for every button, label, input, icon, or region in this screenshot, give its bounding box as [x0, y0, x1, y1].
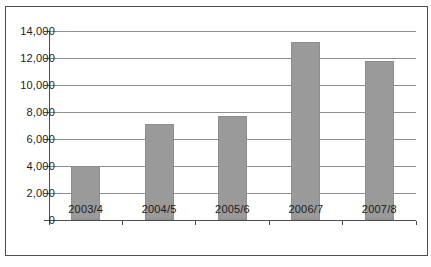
gridline-14,000	[49, 31, 416, 32]
x-axis-tick	[195, 221, 196, 225]
y-tick-label-10,000: 10,000	[20, 79, 55, 91]
y-tick-label-14,000: 14,000	[20, 25, 55, 37]
x-axis-tick	[269, 221, 270, 225]
x-tick-label-2003/4: 2003/4	[68, 203, 103, 215]
gridline-8,000	[49, 112, 416, 113]
gridline-10,000	[49, 85, 416, 86]
chart-outer-border: 02,0004,0006,0008,00010,00012,00014,000 …	[5, 6, 428, 256]
y-tick-label-0: 0	[49, 214, 55, 226]
bar-2007/8	[365, 61, 394, 220]
x-axis-line	[44, 220, 416, 221]
x-tick-label-2005/6: 2005/6	[215, 203, 250, 215]
x-axis-tick	[416, 221, 417, 225]
y-tick-label-6,000: 6,000	[26, 133, 55, 145]
chart-figure: 02,0004,0006,0008,00010,00012,00014,000 …	[0, 0, 431, 267]
x-axis-tick	[342, 221, 343, 225]
gridline-12,000	[49, 58, 416, 59]
y-tick-label-8,000: 8,000	[26, 106, 55, 118]
x-tick-label-2007/8: 2007/8	[362, 203, 397, 215]
y-tick-label-2,000: 2,000	[26, 187, 55, 199]
x-axis-tick	[122, 221, 123, 225]
x-tick-label-2006/7: 2006/7	[288, 203, 323, 215]
y-tick-label-12,000: 12,000	[20, 52, 55, 64]
y-tick-label-4,000: 4,000	[26, 160, 55, 172]
bar-2006/7	[291, 42, 320, 220]
plot-area	[49, 31, 416, 220]
x-tick-label-2004/5: 2004/5	[142, 203, 177, 215]
